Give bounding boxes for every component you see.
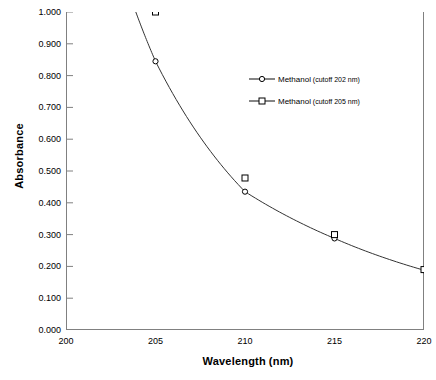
legend-entry: Methanol (cutoff 202 nm) bbox=[249, 68, 434, 90]
y-tick-label: 1.000 bbox=[38, 7, 61, 17]
y-tick-label: 0.100 bbox=[38, 293, 61, 303]
legend-label: Methanol (cutoff 205 nm) bbox=[278, 97, 360, 106]
x-tick-label: 215 bbox=[327, 336, 342, 346]
x-tick-label: 210 bbox=[237, 336, 252, 346]
absorbance-wavelength-chart: Absorbance 0.0000.1000.2000.3000.4000.50… bbox=[0, 0, 436, 380]
y-tick-label: 0.400 bbox=[38, 198, 61, 208]
legend-series-name: Methanol bbox=[278, 97, 311, 106]
x-tick-label: 205 bbox=[148, 336, 163, 346]
legend-series-name: Methanol bbox=[278, 75, 311, 84]
x-axis-title: Wavelength(nm) bbox=[60, 355, 436, 367]
legend-series-note: (cutoff 202 nm) bbox=[311, 76, 360, 83]
x-tick-label: 220 bbox=[416, 336, 431, 346]
y-tick-label: 0.000 bbox=[38, 325, 61, 335]
chart-canvas bbox=[66, 12, 424, 330]
plot-area: 0.0000.1000.2000.3000.4000.5000.6000.700… bbox=[66, 12, 424, 330]
data-point-marker bbox=[332, 232, 338, 238]
data-point-marker bbox=[242, 175, 248, 181]
y-tick-label: 0.300 bbox=[38, 230, 61, 240]
x-axis-unit-text: (nm) bbox=[269, 355, 294, 367]
legend-entry: Methanol (cutoff 205 nm) bbox=[249, 90, 434, 112]
y-tick-label: 0.200 bbox=[38, 261, 61, 271]
legend-series-note: (cutoff 205 nm) bbox=[311, 98, 360, 105]
data-point-marker bbox=[421, 267, 424, 273]
legend-marker-square-icon bbox=[249, 96, 275, 106]
series-circle bbox=[136, 12, 424, 273]
y-tick-label: 0.700 bbox=[38, 102, 61, 112]
y-axis-title: Absorbance bbox=[13, 96, 25, 216]
legend-marker-circle-icon bbox=[249, 74, 275, 84]
chart-legend: Methanol (cutoff 202 nm)Methanol (cutoff… bbox=[249, 68, 434, 112]
y-tick-label: 0.800 bbox=[38, 71, 61, 81]
data-point-marker bbox=[153, 59, 158, 64]
data-point-marker bbox=[242, 189, 247, 194]
data-point-marker bbox=[153, 12, 159, 15]
y-tick-label: 0.900 bbox=[38, 39, 61, 49]
x-tick-label: 200 bbox=[58, 336, 73, 346]
y-tick-label: 0.600 bbox=[38, 134, 61, 144]
x-axis-title-text: Wavelength bbox=[203, 355, 266, 367]
series-square bbox=[153, 12, 425, 273]
y-tick-label: 0.500 bbox=[38, 166, 61, 176]
legend-label: Methanol (cutoff 202 nm) bbox=[278, 75, 360, 84]
